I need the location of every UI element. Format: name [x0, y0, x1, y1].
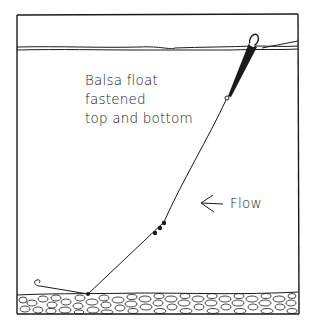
diagram-canvas: [0, 0, 314, 333]
gravel-bed: [17, 292, 299, 314]
flow-arrow-icon: [201, 195, 223, 212]
caption-line-1: Balsa float: [85, 71, 193, 90]
caption-line-2: fastened: [85, 90, 193, 109]
frame: [17, 14, 299, 314]
split-shot: [153, 221, 166, 235]
fishing-line: [88, 100, 226, 294]
flow-label: Flow: [230, 194, 262, 213]
caption-line-3: top and bottom: [85, 109, 193, 128]
float: [225, 33, 260, 100]
caption: Balsa float fastened top and bottom: [85, 71, 193, 128]
